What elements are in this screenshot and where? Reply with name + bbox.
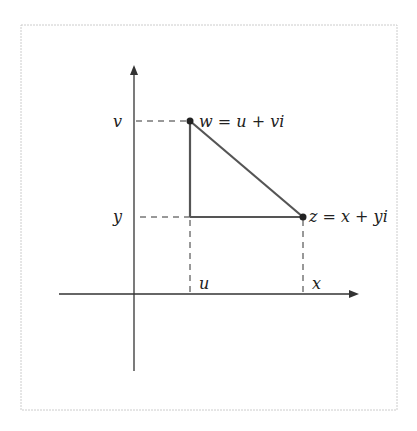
triangle <box>190 121 303 217</box>
y-arrow-icon <box>130 65 138 75</box>
point-w <box>187 118 194 125</box>
label-z-point: z = x + yi <box>308 207 388 226</box>
label-y: y <box>112 207 123 226</box>
x-arrow-icon <box>349 290 359 298</box>
complex-plane-diagram: v y u x w = u + vi z = x + yi <box>0 0 417 431</box>
point-z <box>300 214 307 221</box>
label-w-point: w = u + vi <box>199 112 284 131</box>
label-x: x <box>312 274 321 293</box>
label-u: u <box>199 274 209 293</box>
label-v: v <box>113 112 122 131</box>
